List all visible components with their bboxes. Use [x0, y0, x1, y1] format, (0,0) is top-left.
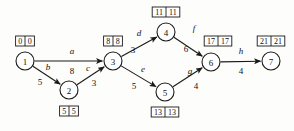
edge-label-a: a — [70, 46, 75, 56]
earliest-time-7: 21 — [260, 37, 268, 46]
earliest-time-2: 5 — [62, 107, 66, 116]
latest-time-4: 11 — [169, 8, 177, 17]
time-box-node-5: 1313 — [151, 107, 179, 117]
latest-time-2: 5 — [72, 107, 76, 116]
node-6[interactable]: 6 — [202, 53, 220, 71]
node-1[interactable]: 1 — [16, 52, 34, 70]
node-label-5: 5 — [163, 88, 168, 98]
node-5[interactable]: 5 — [156, 83, 174, 101]
node-4[interactable]: 4 — [157, 23, 175, 41]
latest-time-7: 21 — [274, 37, 282, 46]
node-label-6: 6 — [209, 58, 214, 68]
edge-d — [121, 37, 156, 56]
node-label-3: 3 — [111, 57, 116, 67]
node-label-4: 4 — [164, 28, 169, 38]
edge-label-b: b — [46, 62, 51, 72]
edge-weight-g: 4 — [194, 81, 199, 91]
latest-time-1: 0 — [28, 37, 32, 46]
edge-label-e: e — [141, 64, 145, 74]
time-box-node-6: 1717 — [204, 36, 232, 46]
time-box-node-7: 2121 — [257, 36, 285, 46]
edge-weight-b: 5 — [38, 77, 43, 87]
time-box-node-1: 00 — [16, 36, 35, 46]
time-boxes-layer: 0055881111131317172121 — [16, 7, 285, 117]
earliest-time-5: 13 — [154, 108, 162, 117]
earliest-time-1: 0 — [18, 37, 22, 46]
earliest-time-6: 17 — [207, 37, 215, 46]
latest-time-6: 17 — [221, 37, 229, 46]
time-box-node-4: 1111 — [152, 7, 180, 17]
edge-label-f: f — [193, 23, 197, 33]
node-7[interactable]: 7 — [262, 52, 280, 70]
node-2[interactable]: 2 — [60, 81, 78, 99]
edge-e — [121, 66, 156, 87]
node-3[interactable]: 3 — [104, 52, 122, 70]
node-label-2: 2 — [67, 86, 72, 96]
edge-weight-d: 3 — [131, 45, 136, 55]
edge-weight-e: 5 — [132, 81, 137, 91]
edge-weight-a: 8 — [70, 66, 75, 76]
edge-c — [77, 67, 104, 85]
latest-time-5: 13 — [168, 108, 176, 117]
network-diagram-canvas: 1234567 0055881111131317172121 a8b5c3d3e… — [0, 0, 294, 131]
edge-label-d: d — [137, 28, 142, 38]
edge-h — [220, 61, 260, 62]
edge-weight-f: 6 — [184, 44, 189, 54]
edge-label-g: g — [188, 66, 193, 76]
edge-weight-h: 4 — [239, 66, 244, 76]
network-diagram-svg: 1234567 0055881111131317172121 a8b5c3d3e… — [0, 0, 294, 131]
edge-label-h: h — [239, 46, 244, 56]
node-label-1: 1 — [23, 57, 28, 67]
edge-label-c: c — [86, 63, 90, 73]
node-label-7: 7 — [269, 57, 274, 67]
earliest-time-3: 8 — [106, 37, 110, 46]
time-box-node-2: 55 — [60, 106, 79, 116]
time-box-node-3: 88 — [104, 36, 123, 46]
latest-time-3: 8 — [116, 37, 120, 46]
edge-weight-c: 3 — [92, 78, 97, 88]
earliest-time-4: 11 — [155, 8, 163, 17]
